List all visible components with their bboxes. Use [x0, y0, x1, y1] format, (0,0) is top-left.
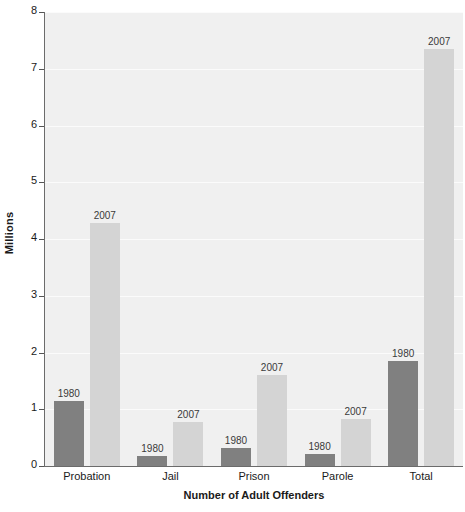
- plot-area: 1980200719802007198020071980200719802007: [45, 12, 463, 466]
- bar-parole-1980[interactable]: 1980: [305, 12, 335, 466]
- bar-rect[interactable]: [424, 49, 454, 466]
- bar-rect[interactable]: [54, 401, 84, 466]
- y-axis-title: Millions: [0, 0, 18, 466]
- bar-value-label: 2007: [409, 36, 463, 47]
- bar-total-1980[interactable]: 1980: [388, 12, 418, 466]
- bar-group: 19802007: [379, 12, 463, 466]
- bar-probation-1980[interactable]: 1980: [54, 12, 84, 466]
- x-axis-category-label-probation: Probation: [45, 470, 129, 482]
- y-axis-tick-label: 6: [31, 118, 37, 130]
- bar-rect[interactable]: [90, 223, 120, 466]
- y-axis-tick-label: 2: [31, 345, 37, 357]
- bar-jail-1980[interactable]: 1980: [137, 12, 167, 466]
- x-axis-category-label-prison: Prison: [212, 470, 296, 482]
- x-axis-title: Number of Adult Offenders: [45, 489, 463, 501]
- bar-rect[interactable]: [257, 375, 287, 466]
- bar-rect[interactable]: [341, 419, 371, 466]
- bar-group: 19802007: [45, 12, 129, 466]
- y-axis-tick-label: 8: [31, 4, 37, 16]
- y-axis-tick-label: 5: [31, 174, 37, 186]
- y-axis-tick-label: 4: [31, 231, 37, 243]
- bar-rect[interactable]: [137, 456, 167, 466]
- bar-value-label: 2007: [158, 409, 218, 420]
- bar-total-2007[interactable]: 2007: [424, 12, 454, 466]
- y-axis-tick-label: 1: [31, 401, 37, 413]
- bar-rect[interactable]: [305, 454, 335, 466]
- bar-group: 19802007: [212, 12, 296, 466]
- bar-prison-2007[interactable]: 2007: [257, 12, 287, 466]
- bar-chart: Millions 012345678 198020071980200719802…: [0, 0, 465, 512]
- x-axis-category-label-total: Total: [379, 470, 463, 482]
- bar-jail-2007[interactable]: 2007: [173, 12, 203, 466]
- y-axis-tick-label: 3: [31, 288, 37, 300]
- bar-rect[interactable]: [221, 448, 251, 466]
- bar-probation-2007[interactable]: 2007: [90, 12, 120, 466]
- bar-parole-2007[interactable]: 2007: [341, 12, 371, 466]
- bar-rect[interactable]: [388, 361, 418, 466]
- y-axis-tick-label: 0: [31, 458, 37, 470]
- bar-group: 19802007: [129, 12, 213, 466]
- y-axis-title-label: Millions: [3, 212, 15, 255]
- bar-group: 19802007: [296, 12, 380, 466]
- bar-prison-1980[interactable]: 1980: [221, 12, 251, 466]
- bar-value-label: 2007: [75, 210, 135, 221]
- y-axis-tick-label: 7: [31, 61, 37, 73]
- bar-value-label: 2007: [242, 362, 302, 373]
- x-axis-category-labels: ProbationJailPrisonParoleTotal: [45, 470, 463, 490]
- x-axis-category-label-jail: Jail: [129, 470, 213, 482]
- x-axis-line: [44, 466, 463, 467]
- y-axis: 012345678: [18, 0, 44, 512]
- bar-value-label: 2007: [326, 406, 386, 417]
- bar-rect[interactable]: [173, 422, 203, 466]
- x-axis-category-label-parole: Parole: [296, 470, 380, 482]
